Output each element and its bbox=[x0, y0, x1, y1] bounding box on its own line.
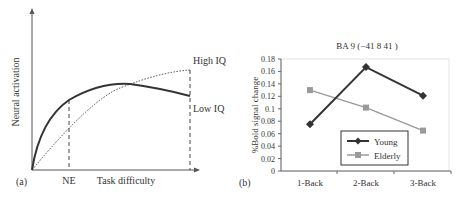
elderly-marker-square-icon bbox=[363, 105, 369, 111]
svg-text:0.04: 0.04 bbox=[261, 142, 275, 151]
y-ticks: 0 0.02 0.04 0.06 0.08 0.1 0.12 0.14 0.16… bbox=[261, 55, 281, 176]
panel-label-a: (a) bbox=[16, 176, 27, 188]
svg-text:0.14: 0.14 bbox=[261, 80, 275, 89]
legend: Young Elderly bbox=[341, 131, 408, 165]
y-axis-label: Neural activation bbox=[10, 57, 21, 126]
y-axis-label-b: %Bold signal change bbox=[250, 77, 260, 153]
low-iq-label: Low IQ bbox=[193, 103, 225, 114]
svg-text:0.12: 0.12 bbox=[261, 92, 275, 101]
svg-text:0.06: 0.06 bbox=[261, 130, 275, 139]
x-tick-1-back: 1-Back bbox=[297, 178, 323, 188]
legend-young-label: Young bbox=[374, 137, 398, 147]
panel-label-b: (b) bbox=[239, 177, 251, 189]
panel-b: BA 9 (−41 8 41 ) 0 0.02 0.04 0.06 0.08 0… bbox=[239, 41, 451, 189]
x-ticks: 1-Back 2-Back 3-Back bbox=[297, 171, 451, 188]
ne-label: NE bbox=[62, 175, 75, 186]
legend-elderly-label: Elderly bbox=[374, 151, 401, 161]
legend-elderly-square-icon bbox=[355, 152, 361, 158]
elderly-marker-square-icon bbox=[307, 87, 313, 93]
svg-text:0.02: 0.02 bbox=[261, 155, 275, 164]
x-tick-3-back: 3-Back bbox=[410, 178, 436, 188]
x-tick-2-back: 2-Back bbox=[353, 178, 379, 188]
x-axis-label: Task difficulty bbox=[97, 175, 155, 186]
svg-text:0.16: 0.16 bbox=[261, 67, 275, 76]
chart-title: BA 9 (−41 8 41 ) bbox=[336, 41, 397, 51]
svg-text:0.1: 0.1 bbox=[265, 105, 275, 114]
y-axis-arrow-icon bbox=[30, 8, 35, 14]
panel-a: Neural activation (a) NE Task difficulty… bbox=[10, 8, 227, 188]
high-iq-label: High IQ bbox=[193, 55, 227, 66]
figure: Neural activation (a) NE Task difficulty… bbox=[0, 0, 470, 198]
low-iq-curve bbox=[32, 84, 190, 170]
elderly-marker-square-icon bbox=[420, 128, 426, 134]
x-axis-arrow-icon bbox=[194, 168, 200, 173]
svg-text:0.18: 0.18 bbox=[261, 55, 275, 64]
svg-text:0.08: 0.08 bbox=[261, 117, 275, 126]
svg-text:0: 0 bbox=[271, 167, 275, 176]
young-marker-diamond-icon bbox=[419, 92, 427, 100]
